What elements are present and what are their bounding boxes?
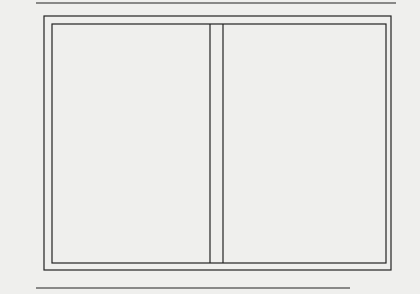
backgammon-board [0,0,420,294]
board-frame [44,16,391,270]
playing-area [52,24,386,263]
